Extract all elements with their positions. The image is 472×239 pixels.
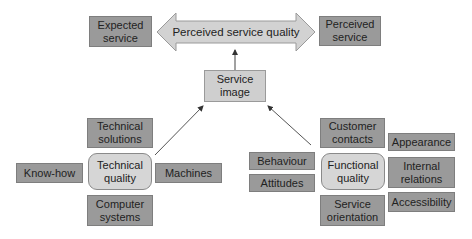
perceived-service-quality-label: Perceived service quality	[157, 13, 315, 51]
expected-service-box: Expected service	[89, 16, 152, 47]
arrow-functional-to-image	[268, 106, 311, 145]
accessibility-box: Accessibility	[388, 192, 455, 212]
internal-relations-box: Internal relations	[388, 157, 455, 188]
behaviour-box: Behaviour	[249, 152, 315, 170]
service-image-box: Service image	[204, 70, 266, 102]
technical-solutions-box: Technical solutions	[87, 118, 153, 148]
service-orientation-box: Service orientation	[320, 195, 385, 226]
computer-systems-box: Computer systems	[87, 195, 153, 226]
know-how-box: Know-how	[16, 163, 83, 183]
attitudes-box: Attitudes	[249, 174, 315, 192]
arrow-technical-to-image	[155, 106, 203, 155]
appearance-box: Appearance	[388, 133, 455, 151]
machines-box: Machines	[155, 163, 222, 183]
technical-quality-box: Technical quality	[88, 153, 152, 190]
customer-contacts-box: Customer contacts	[320, 118, 385, 148]
functional-quality-box: Functional quality	[321, 153, 385, 190]
perceived-service-box: Perceived service	[319, 16, 381, 46]
